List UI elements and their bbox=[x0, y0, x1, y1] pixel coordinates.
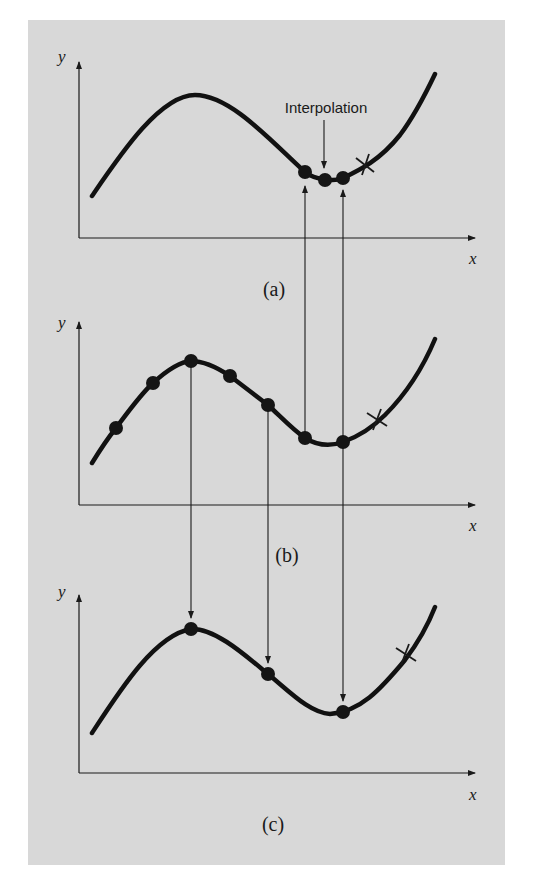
y-label-b: y bbox=[56, 313, 66, 332]
data-point-a-2 bbox=[336, 171, 350, 185]
caption-a: (a) bbox=[263, 278, 285, 301]
data-point-c-1 bbox=[184, 622, 198, 636]
y-label-a: y bbox=[56, 47, 66, 66]
interpolation-diagram: y x Interpolation (a) y x (b) bbox=[0, 0, 546, 891]
figure-background bbox=[28, 20, 505, 865]
data-point-b-3 bbox=[184, 354, 198, 368]
data-point-b-7 bbox=[336, 435, 350, 449]
data-point-b-4 bbox=[223, 369, 237, 383]
data-point-b-2 bbox=[146, 376, 160, 390]
y-label-c: y bbox=[56, 582, 66, 601]
data-point-b-5 bbox=[261, 398, 275, 412]
data-point-a-1 bbox=[298, 165, 312, 179]
x-label-a: x bbox=[468, 249, 477, 268]
data-point-b-1 bbox=[109, 421, 123, 435]
interpolated-point-a bbox=[318, 173, 332, 187]
caption-b: (b) bbox=[275, 544, 298, 567]
data-point-c-3 bbox=[336, 705, 350, 719]
data-point-b-6 bbox=[298, 431, 312, 445]
interpolation-label: Interpolation bbox=[285, 99, 368, 116]
caption-c: (c) bbox=[262, 813, 284, 836]
x-label-c: x bbox=[468, 785, 477, 804]
x-label-b: x bbox=[468, 516, 477, 535]
data-point-c-2 bbox=[261, 667, 275, 681]
